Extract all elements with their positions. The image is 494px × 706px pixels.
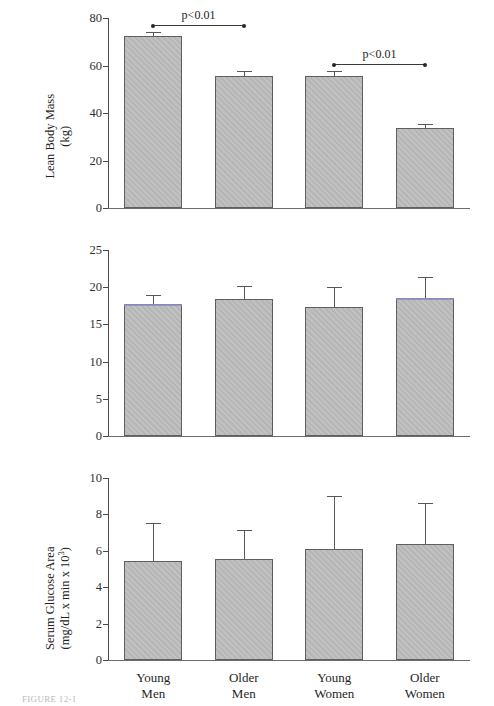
error-bar-cap xyxy=(146,523,161,524)
panel3-plot-area: 0246810 xyxy=(108,478,470,660)
bar-young-men xyxy=(124,36,182,208)
panel2-y-tick xyxy=(103,287,108,288)
error-bar-cap xyxy=(237,286,252,287)
x-axis-label-young-men: YoungMen xyxy=(136,670,170,703)
error-bar xyxy=(244,530,245,559)
panel1-y-tick-label: 60 xyxy=(90,59,103,72)
panel3-y-tick-label: 0 xyxy=(96,654,102,667)
bar-young-women xyxy=(305,549,363,660)
panel1-y-axis-title-line2: (kg) xyxy=(58,94,73,179)
bar-young-men xyxy=(124,561,182,660)
bar-young-women xyxy=(305,76,363,208)
panel3-y-tick xyxy=(103,514,108,515)
panel3-x-axis-line xyxy=(108,660,470,661)
panel2-x-axis-line xyxy=(108,436,470,437)
panel2-y-tick xyxy=(103,436,108,437)
panel1-plot-area: 020406080p<0.01p<0.01 xyxy=(108,18,470,208)
panel2-y-tick-label: 10 xyxy=(90,355,103,368)
error-bar xyxy=(425,503,426,543)
error-bar-cap xyxy=(418,124,433,125)
panel1-y-tick-label: 40 xyxy=(90,107,103,120)
panel2-plot-area: 0510152025 xyxy=(108,250,470,436)
panel3-y-tick-label: 8 xyxy=(96,508,102,521)
significance-p-value-label: p<0.01 xyxy=(182,8,216,23)
panel1-y-tick xyxy=(103,18,108,19)
x-axis-label-line1: Older xyxy=(229,670,259,685)
error-bar-cap xyxy=(146,295,161,296)
error-bar-cap xyxy=(327,496,342,497)
panel2-y-tick xyxy=(103,250,108,251)
panel3-y-tick xyxy=(103,551,108,552)
error-bar-cap xyxy=(237,71,252,72)
x-axis-label-line2: Men xyxy=(136,686,170,702)
panel1-y-tick-label: 0 xyxy=(96,202,102,215)
significance-bracket-line xyxy=(334,64,425,65)
x-axis-label-older-men: OlderMen xyxy=(229,670,259,703)
panel1-y-tick xyxy=(103,66,108,67)
error-bar-cap xyxy=(237,530,252,531)
x-axis-label-older-women: OlderWomen xyxy=(405,670,445,703)
panel2-y-axis-line xyxy=(108,250,109,437)
error-bar xyxy=(334,496,335,549)
significance-bracket-dot xyxy=(242,24,246,28)
error-bar-cap xyxy=(327,71,342,72)
panel1-x-axis-line xyxy=(108,208,470,209)
bar-young-men xyxy=(124,304,182,436)
panel3-y-axis-line xyxy=(108,478,109,661)
x-axis-label-line1: Older xyxy=(410,670,440,685)
bar-older-men xyxy=(215,559,273,660)
panel3-y-tick xyxy=(103,587,108,588)
figure-caption: FIGURE 12-1 xyxy=(22,694,77,704)
figure-container: Lean Body Mass (kg) 020406080p<0.01p<0.0… xyxy=(0,0,494,706)
x-axis-label-line1: Young xyxy=(317,670,351,685)
panel2-y-tick-label: 25 xyxy=(90,244,103,257)
x-axis-label-line2: Women xyxy=(405,686,445,702)
panel1-y-tick xyxy=(103,113,108,114)
significance-bracket-line xyxy=(153,25,244,26)
bar-young-women xyxy=(305,307,363,436)
panel1-y-tick xyxy=(103,161,108,162)
bar-older-men xyxy=(215,299,273,436)
panel1-y-tick xyxy=(103,208,108,209)
x-axis-label-line2: Women xyxy=(314,686,354,702)
error-bar xyxy=(334,287,335,306)
significance-bracket-dot xyxy=(423,63,427,67)
panel3-y-tick xyxy=(103,478,108,479)
bar-older-women xyxy=(396,128,454,208)
panel2-y-tick xyxy=(103,362,108,363)
panel3-y-tick xyxy=(103,660,108,661)
error-bar xyxy=(153,523,154,561)
x-axis-label-young-women: YoungWomen xyxy=(314,670,354,703)
panel2-y-tick xyxy=(103,399,108,400)
panel2-y-tick-label: 0 xyxy=(96,430,102,443)
panel1-y-axis-line xyxy=(108,18,109,209)
panel2-y-tick-label: 15 xyxy=(90,318,103,331)
error-bar xyxy=(153,295,154,304)
panel-serum-glucose-area: Serum Glucose Area (mg/dL x min x 103) 0… xyxy=(0,250,494,496)
error-bar xyxy=(244,286,245,299)
x-axis-label-line2: Men xyxy=(229,686,259,702)
panel1-y-tick-label: 80 xyxy=(90,12,103,25)
panel1-y-axis-title-line1: Lean Body Mass xyxy=(43,94,57,179)
significance-p-value-label: p<0.01 xyxy=(363,47,397,62)
significance-bracket-dot xyxy=(332,63,336,67)
bar-older-women xyxy=(396,544,454,660)
panel1-y-axis-title: Lean Body Mass (kg) xyxy=(43,94,74,179)
error-bar-cap xyxy=(146,32,161,33)
panel3-y-tick-label: 4 xyxy=(96,581,102,594)
panel3-y-tick-label: 2 xyxy=(96,617,102,630)
x-axis-label-line1: Young xyxy=(136,670,170,685)
panel1-y-tick-label: 20 xyxy=(90,154,103,167)
bar-older-women xyxy=(396,298,454,436)
bar-older-men xyxy=(215,76,273,208)
panel-lean-body-mass: Lean Body Mass (kg) 020406080p<0.01p<0.0… xyxy=(0,18,494,268)
significance-bracket-dot xyxy=(151,24,155,28)
error-bar-cap xyxy=(418,277,433,278)
panel2-y-tick-label: 5 xyxy=(96,393,102,406)
error-bar xyxy=(425,277,426,299)
panel2-y-tick xyxy=(103,324,108,325)
panel3-y-tick xyxy=(103,624,108,625)
panel2-y-tick-label: 20 xyxy=(90,281,103,294)
panel3-y-tick-label: 6 xyxy=(96,545,102,558)
panel3-y-tick-label: 10 xyxy=(90,472,103,485)
